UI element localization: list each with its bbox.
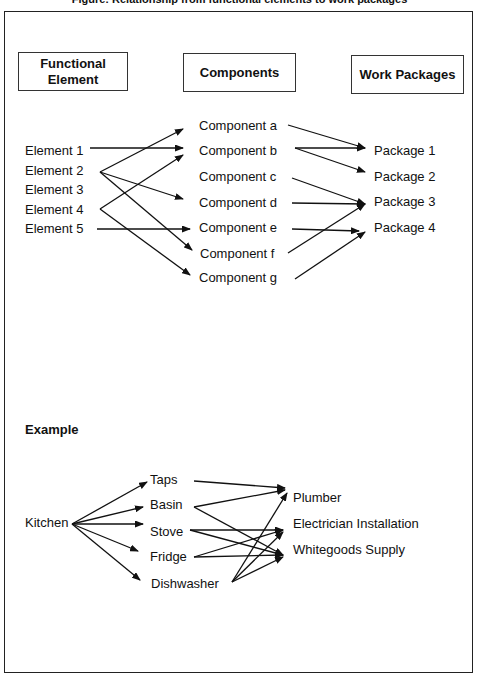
connector-arrows: [0, 0, 479, 654]
